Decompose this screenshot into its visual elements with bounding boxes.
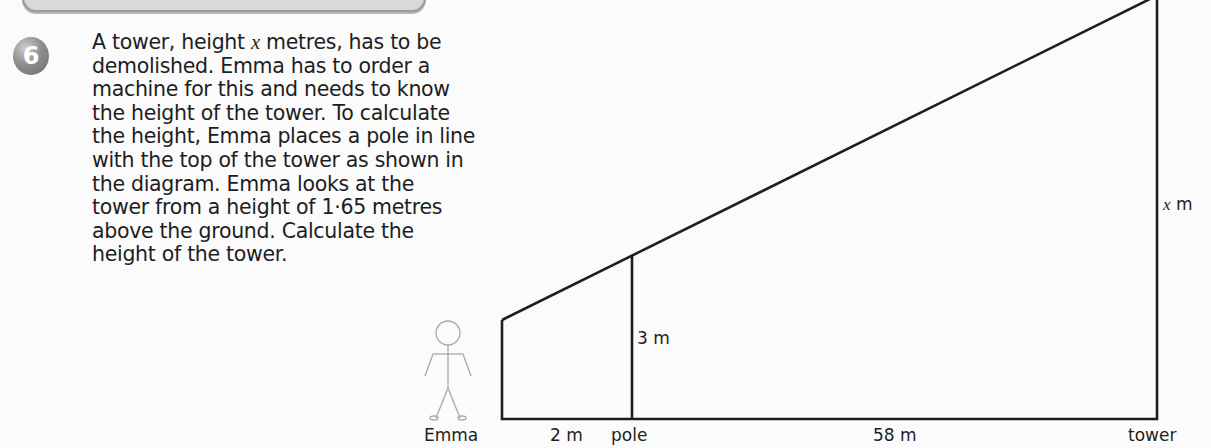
emma-label: Emma: [424, 425, 478, 445]
sight-line: [502, 0, 1152, 320]
tower-label: tower: [1128, 425, 1176, 445]
pole-to-tower-distance-label: 58 m: [873, 425, 917, 445]
stick-figure-icon: [425, 321, 471, 420]
pole-label: pole: [611, 425, 647, 445]
emma-to-pole-distance-label: 2 m: [550, 425, 583, 445]
similar-triangles-diagram: [0, 0, 1211, 448]
sight-line-shape: [502, 0, 1157, 419]
tower-height-label: x m: [1163, 194, 1193, 215]
variable-x: x: [1163, 195, 1171, 214]
pole-height-label: 3 m: [637, 328, 670, 348]
